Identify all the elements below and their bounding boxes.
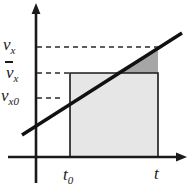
velocity-time-chart	[0, 0, 192, 193]
label-t: t	[154, 165, 159, 182]
label-vx: vx	[3, 36, 15, 56]
label-t0: t0	[63, 166, 73, 186]
label-t-symbol: t	[154, 164, 159, 183]
label-vx0-symbol: v	[1, 86, 9, 105]
velocity-axis-arrow-icon	[32, 3, 41, 14]
label-vbarx: vx	[6, 61, 18, 84]
label-vbarx-symbol: v	[6, 61, 14, 81]
overbar-icon	[5, 61, 13, 63]
label-vx0: vx0	[1, 87, 19, 107]
label-t0-subscript: 0	[68, 174, 74, 186]
label-vx-subscript: x	[11, 44, 16, 56]
average-velocity-rectangle	[70, 73, 158, 157]
label-vbarx-overbar-group: v	[6, 61, 14, 81]
label-vx0-subscript: x0	[9, 95, 19, 107]
label-vbarx-subscript: x	[14, 72, 19, 84]
velocity-time-figure: vx vx vx0 t0 t	[0, 0, 192, 193]
time-axis-arrow-icon	[176, 153, 187, 162]
label-vx-symbol: v	[3, 35, 11, 54]
